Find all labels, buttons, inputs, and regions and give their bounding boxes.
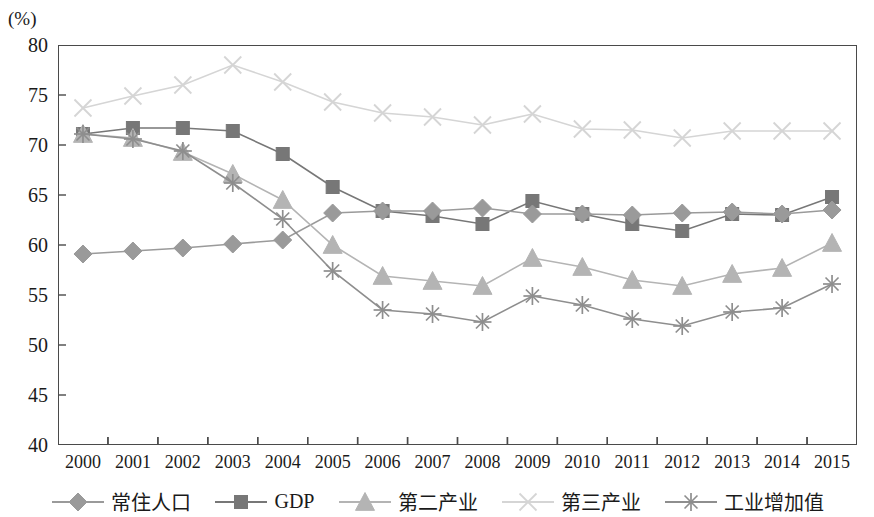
y-tick-label: 70 bbox=[0, 134, 48, 157]
series-常住人口 bbox=[74, 199, 841, 263]
series-工业增加值 bbox=[74, 125, 841, 335]
x-tick-label: 2004 bbox=[265, 452, 301, 473]
x-tick-label: 2008 bbox=[464, 452, 500, 473]
legend-marker-x-icon bbox=[500, 491, 556, 513]
x-tick-label: 2002 bbox=[165, 452, 201, 473]
y-tick-label: 80 bbox=[0, 34, 48, 57]
x-tick-label: 2012 bbox=[664, 452, 700, 473]
y-tick-label: 65 bbox=[0, 184, 48, 207]
y-tick-label: 45 bbox=[0, 384, 48, 407]
legend-marker-asterisk-icon bbox=[663, 491, 719, 513]
y-tick-label: 55 bbox=[0, 284, 48, 307]
plot-area bbox=[58, 45, 857, 445]
x-tick-label: 2014 bbox=[764, 452, 800, 473]
y-tick-label: 40 bbox=[0, 434, 48, 457]
legend-item-工业增加值[interactable]: 工业增加值 bbox=[663, 487, 824, 516]
legend-label: 常住人口 bbox=[111, 487, 191, 516]
x-tick-label: 2011 bbox=[615, 452, 650, 473]
x-tick-label: 2001 bbox=[115, 452, 151, 473]
legend-label: 工业增加值 bbox=[724, 487, 824, 516]
chart-container: (%) 404550556065707580 20002001200220032… bbox=[0, 0, 874, 517]
x-tick-label: 2003 bbox=[215, 452, 251, 473]
legend-item-第二产业[interactable]: 第二产业 bbox=[337, 487, 478, 516]
legend-marker-triangle-icon bbox=[337, 491, 393, 513]
x-tick-label: 2005 bbox=[315, 452, 351, 473]
y-tick-label: 60 bbox=[0, 234, 48, 257]
legend-label: 第三产业 bbox=[561, 487, 641, 516]
series-layer bbox=[58, 45, 857, 445]
legend-label: GDP bbox=[274, 490, 314, 513]
y-tick-label: 75 bbox=[0, 84, 48, 107]
legend-item-GDP[interactable]: GDP bbox=[213, 490, 314, 513]
x-tick-label: 2013 bbox=[714, 452, 750, 473]
legend-label: 第二产业 bbox=[398, 487, 478, 516]
legend-item-常住人口[interactable]: 常住人口 bbox=[50, 487, 191, 516]
legend-item-第三产业[interactable]: 第三产业 bbox=[500, 487, 641, 516]
chart-legend: 常住人口GDP第二产业第三产业工业增加值 bbox=[0, 487, 874, 516]
x-tick-label: 2015 bbox=[814, 452, 850, 473]
x-tick-label: 2009 bbox=[514, 452, 550, 473]
x-tick-label: 2006 bbox=[365, 452, 401, 473]
y-axis-unit-label: (%) bbox=[8, 8, 36, 30]
y-tick-label: 50 bbox=[0, 334, 48, 357]
x-tick-label: 2010 bbox=[564, 452, 600, 473]
x-tick-label: 2000 bbox=[65, 452, 101, 473]
x-tick-label: 2007 bbox=[415, 452, 451, 473]
legend-marker-square-icon bbox=[213, 491, 269, 513]
legend-marker-diamond-icon bbox=[50, 491, 106, 513]
